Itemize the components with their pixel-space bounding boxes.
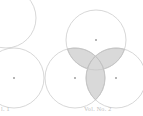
figure-root: l. 1 Vol. No. 2 bbox=[0, 0, 143, 116]
right-bottomleft-circle-center-dot bbox=[74, 77, 76, 79]
right-top-circle-center-dot bbox=[95, 39, 97, 41]
figure-canvas bbox=[0, 0, 143, 116]
left-upper-circle bbox=[0, 0, 36, 48]
caption-left-diagram: l. 1 bbox=[1, 106, 10, 113]
right-bottomright-circle-center-dot bbox=[115, 77, 117, 79]
left-lower-circle bbox=[0, 48, 44, 108]
left-lower-circle-center-dot bbox=[13, 77, 15, 79]
caption-right-diagram: Vol. No. 2 bbox=[84, 106, 112, 113]
